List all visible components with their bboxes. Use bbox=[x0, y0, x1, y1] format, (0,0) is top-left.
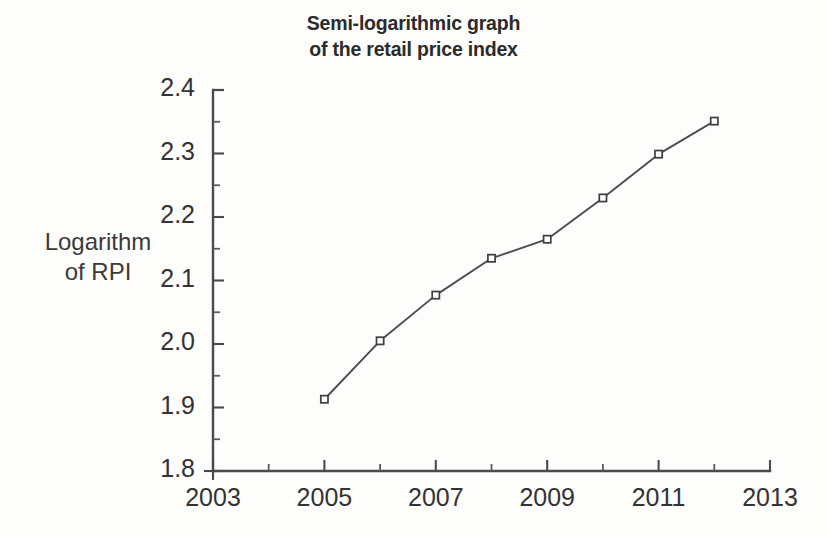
x-tick-label: 2013 bbox=[720, 483, 820, 512]
x-tick-label: 2011 bbox=[609, 483, 709, 512]
x-tick-label: 2003 bbox=[163, 483, 263, 512]
data-point-marker[interactable] bbox=[711, 118, 718, 125]
y-tick-label: 2.1 bbox=[131, 264, 195, 293]
y-tick-label: 2.2 bbox=[131, 200, 195, 229]
data-point-marker[interactable] bbox=[488, 255, 495, 262]
y-tick-label: 1.8 bbox=[131, 454, 195, 483]
axis-ticks bbox=[204, 90, 714, 480]
y-tick-label: 2.0 bbox=[131, 327, 195, 356]
plot-area bbox=[0, 0, 827, 535]
y-tick-label: 2.3 bbox=[131, 137, 195, 166]
data-point-marker[interactable] bbox=[655, 151, 662, 158]
x-tick-label: 2005 bbox=[274, 483, 374, 512]
data-series bbox=[321, 118, 718, 403]
data-point-marker[interactable] bbox=[321, 396, 328, 403]
data-point-marker[interactable] bbox=[544, 236, 551, 243]
series-line bbox=[324, 121, 714, 399]
data-point-marker[interactable] bbox=[377, 337, 384, 344]
x-tick-label: 2007 bbox=[386, 483, 486, 512]
data-point-marker[interactable] bbox=[599, 194, 606, 201]
chart-figure: Semi-logarithmic graph of the retail pri… bbox=[0, 0, 827, 535]
y-tick-label: 2.4 bbox=[131, 73, 195, 102]
axes bbox=[213, 90, 770, 471]
x-tick-label: 2009 bbox=[497, 483, 597, 512]
y-tick-label: 1.9 bbox=[131, 391, 195, 420]
data-point-marker[interactable] bbox=[432, 292, 439, 299]
